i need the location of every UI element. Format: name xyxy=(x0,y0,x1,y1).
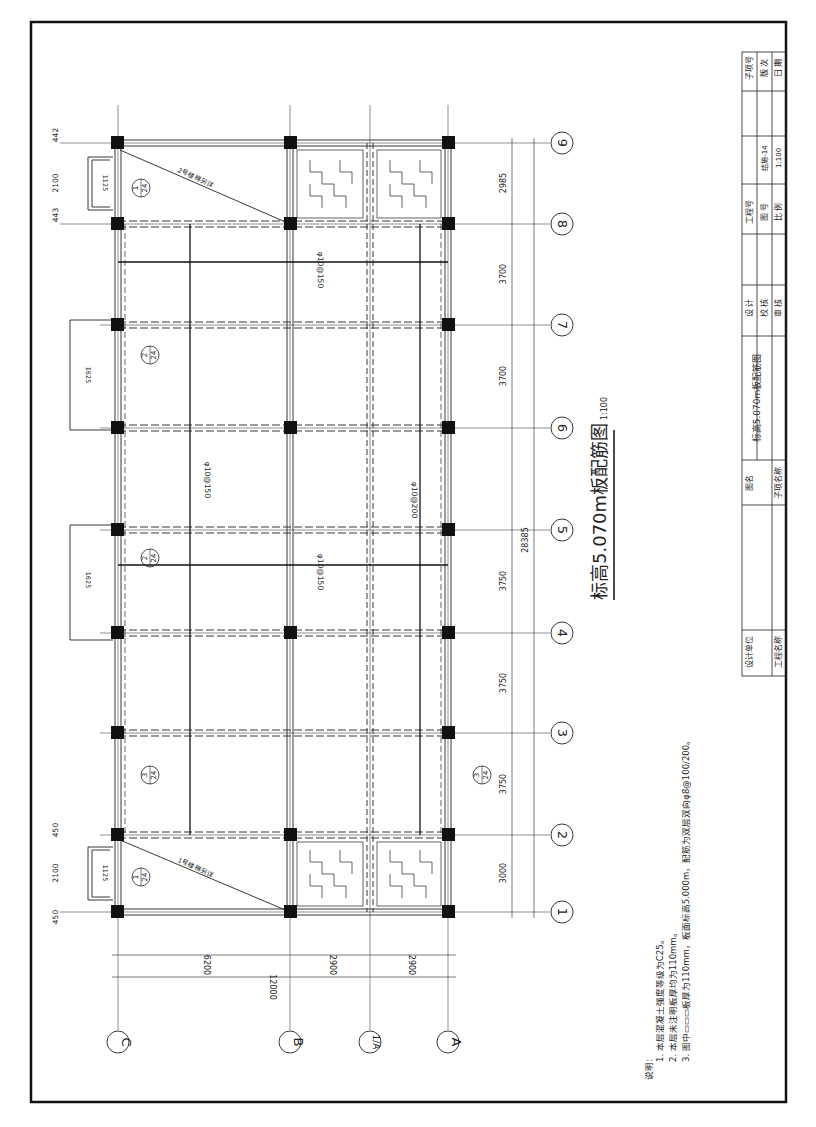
svg-text:1/A: 1/A xyxy=(371,1035,381,1051)
svg-text:3750: 3750 xyxy=(499,673,508,693)
drawing-scale-text: 1:100 xyxy=(600,397,609,420)
version-label: 版 次 xyxy=(759,59,769,78)
check-label: 校 核 xyxy=(759,299,769,318)
detail-2-width-b: 1625 xyxy=(84,367,92,384)
stair-dims: 450 2100 450 442 2100 443 xyxy=(51,128,60,925)
stair-1-marker: 1 24 xyxy=(132,868,150,886)
svg-text:1: 1 xyxy=(132,186,140,190)
drawing-title-text: 标高5.070m板配筋图 xyxy=(589,423,610,600)
svg-text:2900: 2900 xyxy=(328,955,337,975)
detail-2-marker-b: 2 24 xyxy=(141,346,159,364)
drawing-no-value: 结施-14 xyxy=(760,145,769,171)
svg-text:5: 5 xyxy=(555,526,570,534)
note-2: 2. 本层未注明板厚均为110mm。 xyxy=(668,928,678,1062)
stair-2-marker: 1 24 xyxy=(132,179,150,197)
svg-text:2: 2 xyxy=(141,353,149,357)
svg-text:24: 24 xyxy=(150,553,158,562)
svg-text:6: 6 xyxy=(555,424,570,432)
stair-2-width: 1125 xyxy=(101,175,109,192)
svg-text:3750: 3750 xyxy=(499,571,508,591)
svg-text:12000: 12000 xyxy=(268,974,277,999)
review-label: 审 核 xyxy=(773,299,783,318)
stair-2-label: 2号楼梯另详 xyxy=(176,165,215,190)
stair-1-width: 1125 xyxy=(101,865,109,882)
svg-text:7: 7 xyxy=(555,321,570,329)
date-label: 日 期 xyxy=(774,59,783,78)
svg-text:3700: 3700 xyxy=(499,366,508,386)
drawing-canvas: 子项号 版 次 日 期 结施-14 1:100 工程号 图 号 比 例 设 计 … xyxy=(0,0,816,1127)
notes: 说明: 1. 本层混凝土强度等级为C25。 2. 本层未注明板厚均为110mm。… xyxy=(644,736,691,1080)
project-name-label: 工程名称 xyxy=(773,636,783,668)
svg-text:3: 3 xyxy=(141,773,149,777)
design-label: 设 计 xyxy=(744,299,754,318)
svg-text:6200: 6200 xyxy=(202,955,211,975)
rebar-labels: φ10@150 φ10@150 φ10@150 φ10@200 xyxy=(203,252,419,591)
detail-2-marker-a: 2 24 xyxy=(141,549,159,567)
svg-text:24: 24 xyxy=(150,770,158,779)
axis-bubble-c: C xyxy=(107,1031,134,1053)
drawing-sheet: 子项号 版 次 日 期 结施-14 1:100 工程号 图 号 比 例 设 计 … xyxy=(0,0,816,1127)
svg-text:8: 8 xyxy=(555,220,570,228)
svg-text:3700: 3700 xyxy=(499,264,508,284)
svg-text:3000: 3000 xyxy=(499,863,508,883)
svg-text:2: 2 xyxy=(141,556,149,560)
axis-bubble-b: B xyxy=(279,1031,306,1053)
svg-text:450: 450 xyxy=(51,823,60,838)
svg-text:2100: 2100 xyxy=(51,173,60,192)
drawing-name-label: 图名 xyxy=(744,475,754,491)
svg-text:A: A xyxy=(449,1038,464,1047)
letter-axis-bubbles: C B 1/A A xyxy=(107,1031,464,1053)
drawing-no-label: 图 号 xyxy=(760,203,769,222)
svg-text:3: 3 xyxy=(473,773,481,777)
note-1: 1. 本层混凝土强度等级为C25。 xyxy=(655,935,665,1062)
svg-text:1: 1 xyxy=(555,908,570,916)
axis-bubble-1a: 1/A xyxy=(359,1031,381,1053)
svg-text:28385: 28385 xyxy=(521,527,530,552)
svg-text:450: 450 xyxy=(51,910,60,925)
drawing-name-value: 标高5.070m板配筋图 xyxy=(751,354,762,443)
svg-text:24: 24 xyxy=(141,183,149,192)
rebar-label-top: φ10@150 xyxy=(316,252,325,289)
svg-text:442: 442 xyxy=(51,128,60,143)
svg-text:2985: 2985 xyxy=(499,173,508,193)
svg-text:4: 4 xyxy=(555,629,570,637)
svg-text:9: 9 xyxy=(555,139,570,147)
scale-value: 1:100 xyxy=(775,148,783,168)
scale-label: 比 例 xyxy=(773,203,783,222)
svg-text:24: 24 xyxy=(150,350,158,359)
number-axis-bubbles: 1 2 3 4 5 6 7 8 9 xyxy=(551,132,573,923)
detail-3-marker-b: 3 24 xyxy=(473,766,491,784)
rebar-label-long-2: φ10@200 xyxy=(410,482,419,519)
project-no-label: 工程号 xyxy=(745,200,754,224)
stair-1-label: 1号楼梯另详 xyxy=(176,855,215,880)
rebar-label-long-1: φ10@150 xyxy=(203,462,212,499)
detail-2-width-a: 1625 xyxy=(84,572,92,589)
note-3: 3. 图中▭▭▭板厚为110mm，板面标高5.000m，配筋为双层双向φ8@10… xyxy=(681,736,691,1062)
structural-plan xyxy=(60,105,550,1030)
svg-text:C: C xyxy=(119,1037,134,1046)
sub-item-name-label: 子项名称 xyxy=(773,467,783,499)
drawing-title: 标高5.070m板配筋图 1:100 xyxy=(589,397,614,600)
svg-text:2900: 2900 xyxy=(407,955,416,975)
svg-text:2100: 2100 xyxy=(51,863,60,882)
axis-bubble-a: A xyxy=(437,1031,464,1053)
svg-text:B: B xyxy=(291,1038,306,1047)
rebar-label-mid: φ10@150 xyxy=(316,554,325,591)
svg-text:443: 443 xyxy=(51,208,60,223)
svg-text:3750: 3750 xyxy=(499,774,508,794)
notes-heading: 说明: xyxy=(644,1059,654,1080)
svg-text:1: 1 xyxy=(132,875,140,879)
detail-3-marker-a: 3 24 xyxy=(141,766,159,784)
svg-text:24: 24 xyxy=(482,770,490,779)
sub-item-no-label: 子项号 xyxy=(745,56,754,80)
detail-markers: 1 24 1 24 2 24 2 24 3 24 3 24 xyxy=(132,179,491,886)
svg-text:3: 3 xyxy=(555,729,570,737)
design-unit-label: 设计单位 xyxy=(744,636,754,668)
number-axis-dims: 3000 3750 3750 3750 3700 3700 2985 28385 xyxy=(499,173,530,883)
title-block-text: 子项号 版 次 日 期 结施-14 1:100 工程号 图 号 比 例 设 计 … xyxy=(744,56,783,668)
svg-text:24: 24 xyxy=(141,872,149,881)
svg-text:2: 2 xyxy=(555,831,570,839)
